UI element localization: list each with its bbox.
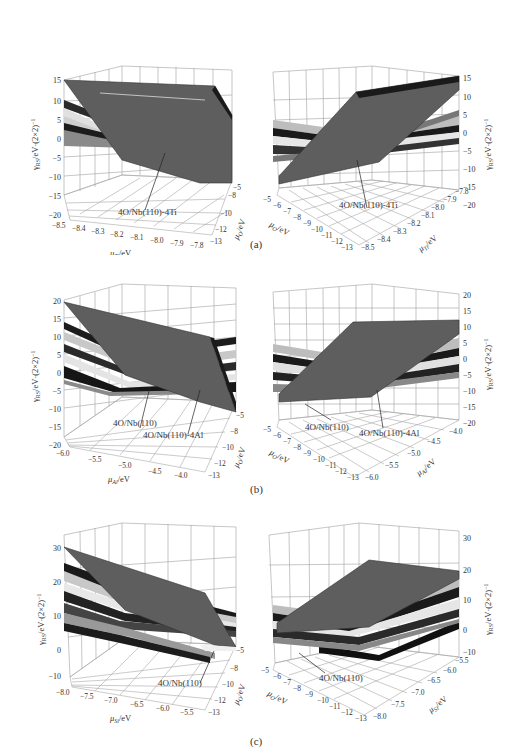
svg-text:−8.1: −8.1: [130, 233, 144, 242]
svg-text:−8.3: −8.3: [91, 227, 105, 236]
svg-text:−8: −8: [230, 427, 238, 436]
svg-text:−4.0: −4.0: [449, 427, 463, 436]
svg-text:−5.0: −5.0: [407, 449, 421, 458]
svg-text:−8: −8: [230, 664, 238, 673]
annotation-label: 4O/Nb(110)-4Ti: [339, 200, 398, 210]
svg-text:−12: −12: [335, 467, 347, 476]
svg-text:−6.0: −6.0: [56, 449, 70, 458]
svg-text:−7.5: −7.5: [391, 700, 405, 709]
svg-text:−13: −13: [208, 471, 220, 480]
svg-text:15: 15: [53, 315, 61, 324]
y-axis-label: μO/eV: [230, 217, 249, 242]
z-axis-label: γRS/eV·(2×2)−1: [483, 583, 494, 636]
z-axis-label: γRS/eV·(2×2)−1: [36, 593, 47, 646]
svg-text:−5: −5: [52, 387, 61, 396]
svg-text:−8: −8: [228, 191, 236, 200]
svg-text:−5: −5: [463, 147, 472, 156]
annotation-leader-1: [305, 404, 331, 420]
svg-text:−9: −9: [305, 690, 313, 699]
svg-text:−6.5: −6.5: [427, 676, 441, 685]
svg-text:−13: −13: [210, 237, 222, 246]
svg-text:−20: −20: [463, 419, 476, 428]
z-axis-label: γRS/eV·(2×2)−1: [30, 118, 41, 171]
annotation-leader: [299, 653, 325, 673]
svg-text:−7: −7: [283, 207, 291, 216]
svg-text:−6.0: −6.0: [156, 704, 170, 713]
y-axis-label: μTi/eV: [415, 232, 440, 255]
surface-plot-a-left: 4O/Nb(110)-4Ti 15 10 5 0 −5 −10 −15 −20 …: [0, 20, 259, 255]
x-axis-label: μSi/eV: [109, 713, 132, 724]
svg-text:10: 10: [463, 93, 471, 102]
svg-text:15: 15: [463, 307, 471, 316]
surface-plot-b-left: 4O/Nb(110) 4O/Nb(110)-4Al 20 15 10 5 0 −…: [0, 262, 259, 497]
svg-text:20: 20: [463, 566, 471, 575]
svg-text:30: 30: [463, 534, 471, 543]
surface-plot-c-left: 4O/Nb(110) 30 20 10 0 −10 γRS/eV·(2×2)−1…: [0, 505, 259, 740]
z-ticks: 30 20 10 0 −10: [48, 544, 61, 681]
z-ticks: 20 15 10 5 0 −5 −10 −15 −20: [48, 297, 61, 450]
svg-text:10: 10: [463, 596, 471, 605]
svg-text:−12: −12: [214, 696, 226, 705]
svg-text:0: 0: [463, 355, 467, 364]
x-ticks: −5 −6 −7 −8 −9 −10 −11 −12 −13: [263, 425, 359, 482]
z-axis-label: γRS/eV·(2×2)−1: [483, 118, 494, 171]
annotation-label-2: 4O/Nb(110)-4Al: [359, 428, 420, 438]
svg-text:20: 20: [53, 578, 61, 587]
z-ticks: 30 20 10 0 −10: [463, 534, 476, 657]
svg-text:5: 5: [57, 116, 61, 125]
svg-text:−10: −10: [222, 680, 234, 689]
svg-text:10: 10: [463, 323, 471, 332]
svg-text:−6.0: −6.0: [443, 666, 457, 675]
grid-floor: [64, 175, 232, 235]
svg-text:−5: −5: [263, 425, 271, 434]
y-ticks: −8.0 −7.5 −7.0 −6.5 −6.0 −5.5: [373, 656, 469, 721]
svg-text:−6.0: −6.0: [365, 473, 379, 482]
svg-text:−8.1: −8.1: [421, 211, 435, 220]
svg-text:−8.4: −8.4: [377, 235, 391, 244]
svg-text:−7: −7: [283, 678, 291, 687]
svg-text:−8.0: −8.0: [150, 236, 164, 245]
svg-text:−5.5: −5.5: [88, 455, 102, 464]
svg-text:−10: −10: [48, 173, 61, 182]
svg-text:−6: −6: [273, 431, 281, 440]
surface-plot-a-right: 4O/Nb(110)-4Ti 15 10 5 0 −5 −10 −15 −20 …: [259, 20, 518, 255]
svg-text:−13: −13: [355, 714, 367, 723]
svg-text:−7.9: −7.9: [443, 195, 457, 204]
svg-text:30: 30: [53, 544, 61, 553]
svg-text:−7.8: −7.8: [455, 187, 469, 196]
svg-text:0: 0: [463, 129, 467, 138]
svg-text:−12: −12: [214, 459, 226, 468]
svg-text:−8: −8: [293, 684, 301, 693]
svg-text:0: 0: [57, 135, 61, 144]
svg-text:−5: −5: [236, 646, 244, 655]
z-axis-label: γRS/eV·(2×2)−1: [483, 338, 494, 391]
svg-text:5: 5: [57, 351, 61, 360]
caption-a: (a): [250, 238, 262, 250]
svg-text:−10: −10: [220, 209, 232, 218]
svg-text:−7.5: −7.5: [80, 692, 94, 701]
svg-text:−9: −9: [303, 219, 311, 228]
svg-text:−7.8: −7.8: [190, 241, 204, 250]
svg-text:−5: −5: [263, 195, 271, 204]
svg-text:5: 5: [463, 339, 467, 348]
annotation-label-1: 4O/Nb(110): [113, 418, 157, 428]
y-axis-label: μSi/eV: [425, 693, 450, 716]
chart-b-left: 4O/Nb(110) 4O/Nb(110)-4Al 20 15 10 5 0 −…: [0, 262, 259, 497]
svg-text:−10: −10: [317, 696, 329, 705]
svg-text:20: 20: [53, 297, 61, 306]
svg-text:−15: −15: [48, 423, 61, 432]
svg-text:−8.3: −8.3: [393, 227, 407, 236]
svg-text:−10: −10: [463, 165, 476, 174]
svg-text:−10: −10: [463, 387, 476, 396]
svg-text:15: 15: [463, 74, 471, 83]
svg-text:−10: −10: [313, 455, 325, 464]
svg-text:−8.2: −8.2: [110, 230, 124, 239]
svg-text:−20: −20: [463, 201, 476, 210]
svg-text:0: 0: [57, 369, 61, 378]
svg-text:−7.9: −7.9: [170, 239, 184, 248]
svg-text:−5.0: −5.0: [118, 461, 132, 470]
svg-text:−5: −5: [261, 666, 269, 675]
svg-text:0: 0: [57, 646, 61, 655]
svg-text:−15: −15: [48, 192, 61, 201]
svg-text:5: 5: [463, 111, 467, 120]
